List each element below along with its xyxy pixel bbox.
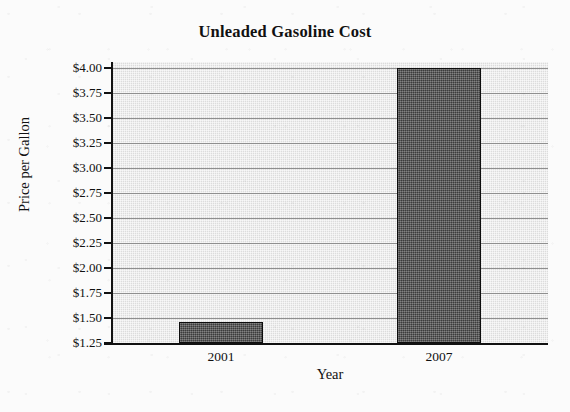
bar — [397, 68, 481, 343]
gridline — [112, 168, 548, 169]
y-axis-tick-label: $2.00 — [2, 261, 102, 274]
gridline — [112, 93, 548, 94]
gridline — [112, 143, 548, 144]
gridline — [112, 68, 548, 69]
y-axis-tick-label: $4.00 — [2, 61, 102, 74]
y-axis-tick-label: $1.25 — [2, 336, 102, 349]
gridline — [112, 268, 548, 269]
y-axis-tick-mark — [104, 142, 113, 144]
y-axis-tick-mark — [104, 217, 113, 219]
y-axis-tick-label: $1.50 — [2, 311, 102, 324]
gridline — [112, 193, 548, 194]
plot-area — [112, 62, 548, 343]
gridline — [112, 318, 548, 319]
y-axis-tick-mark — [104, 167, 113, 169]
y-axis-title: Price per Gallon — [16, 80, 33, 250]
y-axis-tick-mark — [104, 92, 113, 94]
y-axis-line — [111, 62, 113, 344]
gridline — [112, 218, 548, 219]
bar — [179, 322, 263, 343]
y-axis-tick-mark — [104, 117, 113, 119]
gridline — [112, 118, 548, 119]
y-axis-tick-mark — [104, 342, 113, 344]
y-axis-tick-mark — [104, 67, 113, 69]
y-axis-tick-mark — [104, 317, 113, 319]
y-axis-tick-mark — [104, 292, 113, 294]
bar-chart-figure: Unleaded Gasoline Cost $4.00$3.75$3.50$3… — [0, 0, 570, 412]
gridline — [112, 243, 548, 244]
y-axis-tick-mark — [104, 242, 113, 244]
y-axis-tick-mark — [104, 267, 113, 269]
x-axis-title: Year — [112, 366, 548, 383]
y-axis-tick-label: $1.75 — [2, 286, 102, 299]
y-axis-tick-mark — [104, 192, 113, 194]
x-axis-line — [104, 343, 548, 345]
x-axis-tick-label: 2001 — [161, 349, 281, 365]
gridline — [112, 293, 548, 294]
x-axis-tick-label: 2007 — [379, 349, 499, 365]
